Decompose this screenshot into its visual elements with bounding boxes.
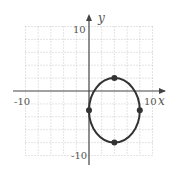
x-max-label: 10 [144, 96, 157, 107]
ellipse-curve [89, 78, 140, 143]
data-point [86, 107, 92, 113]
y-max-label: 10 [73, 24, 86, 35]
data-point [111, 75, 117, 81]
y-axis-label: y [97, 11, 105, 25]
data-point [137, 107, 143, 113]
x-min-label: -10 [14, 96, 30, 107]
y-min-label: -10 [71, 150, 87, 161]
ellipse-graph: y x -10 10 10 -10 [0, 0, 173, 172]
data-point [111, 140, 117, 146]
y-axis-arrow-icon [86, 14, 92, 21]
x-axis-label: x [158, 94, 165, 108]
